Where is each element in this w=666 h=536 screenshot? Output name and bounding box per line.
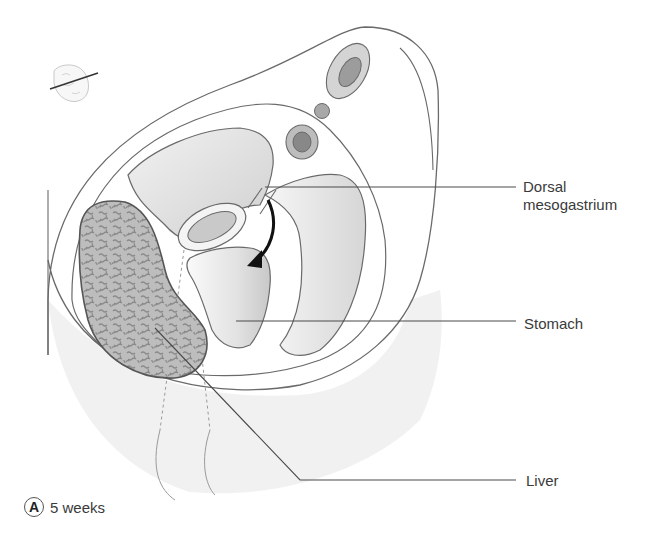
label-dorsal-mesogastrium: Dorsal mesogastrium xyxy=(523,178,617,214)
label-liver: Liver xyxy=(526,472,559,490)
figure-caption: A 5 weeks xyxy=(24,497,105,517)
stage-caption: 5 weeks xyxy=(50,499,105,516)
embryo-orientation-inset-icon xyxy=(50,65,98,102)
right-peritoneal-cavity xyxy=(265,174,366,355)
body-wall-right-edge xyxy=(400,48,433,170)
label-stomach: Stomach xyxy=(524,315,583,333)
embryo-cross-section-diagram xyxy=(0,0,666,536)
panel-letter-badge: A xyxy=(24,497,44,517)
label-dorsal-line2: mesogastrium xyxy=(523,196,617,214)
label-dorsal-line1: Dorsal xyxy=(523,178,617,196)
